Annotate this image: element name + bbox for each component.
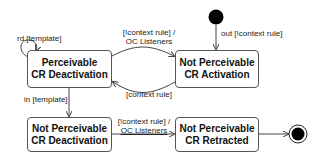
label-pcd-to-npca-action: OC Listeners [117, 37, 181, 47]
state-title-line1: Not Perceivable [32, 123, 107, 135]
state-title-line2: CR Deactivation [31, 69, 108, 81]
label-npcd-to-npcr-action: OC Listeners [112, 126, 176, 136]
state-perceivable-cr-deactivation: Perceivable CR Deactivation [27, 50, 112, 88]
state-title-line2: CR Activation [184, 69, 249, 81]
state-not-perceivable-cr-deactivation: Not Perceivable CR Deactivation [27, 117, 112, 152]
label-self-loop: rd [template] [17, 34, 61, 44]
state-title-line2: CR Retracted [185, 135, 248, 147]
state-title-line2: CR Deactivation [31, 135, 108, 147]
initial-node [209, 10, 224, 25]
state-not-perceivable-cr-retracted: Not Perceivable CR Retracted [175, 117, 259, 152]
label-npca-to-pcd: [context rule] [117, 90, 181, 100]
state-title-line1: Perceivable [42, 57, 98, 69]
state-title-line1: Not Perceivable [179, 123, 254, 135]
label-pcd-to-npcd: in [template] [24, 95, 68, 105]
label-initial: out [!context rule] [221, 29, 282, 39]
state-title-line1: Not Perceivable [179, 57, 254, 69]
state-not-perceivable-cr-activation: Not Perceivable CR Activation [175, 50, 259, 88]
